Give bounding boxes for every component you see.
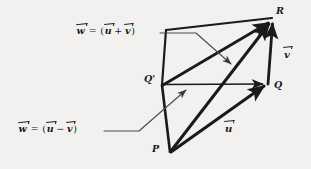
equation-sum-equals: =	[85, 25, 100, 36]
equation-difference: w=(u−v)	[18, 124, 77, 134]
equation-sum: w=(u+v)	[76, 26, 135, 36]
arrow-v-vector	[268, 24, 273, 84]
equation-difference-equals: =	[27, 123, 42, 134]
equation-sum-v: v	[125, 26, 132, 36]
label-u-vector-text: u	[225, 124, 232, 134]
equation-sum-w: w	[76, 26, 85, 36]
point-label-r: R	[276, 6, 284, 16]
equation-sum-operator: +	[112, 25, 125, 36]
equation-sum-close-paren: )	[131, 25, 135, 36]
edge-left-p-qprime	[162, 85, 170, 152]
leader-line-difference	[104, 90, 186, 131]
equation-difference-u: u	[46, 124, 54, 134]
arrow-u-vector	[171, 86, 264, 152]
equation-difference-w: w	[18, 124, 27, 134]
equation-difference-operator: −	[54, 123, 67, 134]
equation-sum-u: u	[104, 26, 112, 36]
label-v-vector-text: v	[284, 50, 290, 60]
label-u-vector: u	[225, 124, 232, 134]
vector-diagram-figure: w=(u+v) w=(u−v) v u R Q Q' P	[0, 0, 311, 169]
edge-qprime-topleft	[162, 30, 166, 85]
point-label-p: P	[152, 144, 159, 154]
point-label-q: Q	[274, 80, 282, 90]
equation-difference-v: v	[67, 124, 74, 134]
leader-line-sum	[160, 33, 231, 64]
point-label-q-prime: Q'	[144, 74, 155, 84]
edge-top	[166, 18, 272, 30]
arrow-difference-vector	[163, 84, 263, 85]
arrow-translated-u	[163, 23, 268, 85]
arrow-sum-vector	[171, 24, 269, 151]
label-v-vector: v	[284, 50, 290, 60]
equation-difference-close-paren: )	[73, 123, 77, 134]
